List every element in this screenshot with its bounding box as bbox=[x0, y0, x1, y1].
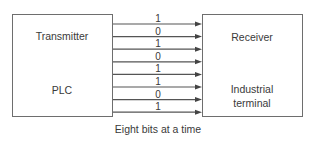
terminal-label: terminal bbox=[233, 97, 270, 109]
bit-label: 0 bbox=[155, 89, 161, 100]
bit-label: 1 bbox=[155, 76, 161, 87]
plc-label: PLC bbox=[52, 84, 73, 96]
bit-label: 1 bbox=[155, 38, 161, 49]
parallel-transmission-diagram: Transmitter PLC Receiver Industrial term… bbox=[0, 0, 316, 142]
industrial-label: Industrial bbox=[231, 83, 274, 95]
bit-label: 1 bbox=[155, 13, 161, 24]
arrow-head-icon bbox=[195, 22, 202, 27]
arrow-head-icon bbox=[195, 85, 202, 90]
arrow-head-icon bbox=[195, 34, 202, 39]
bit-label: 1 bbox=[155, 63, 161, 74]
receiver-label: Receiver bbox=[231, 31, 273, 43]
arrow-head-icon bbox=[195, 110, 202, 115]
bit-label: 1 bbox=[155, 101, 161, 112]
arrow-head-icon bbox=[195, 97, 202, 102]
arrow-head-icon bbox=[195, 47, 202, 52]
transmitter-label: Transmitter bbox=[36, 30, 89, 42]
bit-label: 0 bbox=[155, 51, 161, 62]
arrow-head-icon bbox=[195, 72, 202, 77]
caption: Eight bits at a time bbox=[115, 123, 202, 135]
arrow-head-icon bbox=[195, 59, 202, 64]
data-lines: 10101101 bbox=[113, 13, 202, 115]
bit-label: 0 bbox=[155, 26, 161, 37]
